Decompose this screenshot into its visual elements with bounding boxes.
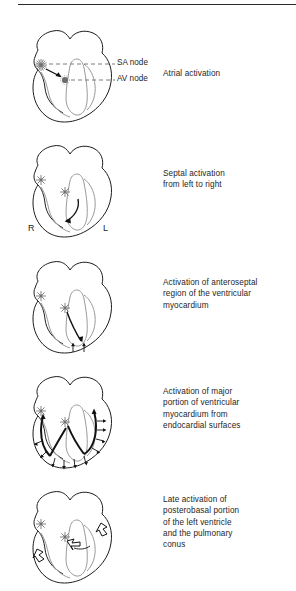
panel-late-activation: Late activation of posterobasal portion … [0, 479, 296, 591]
panel-major-portion-activation: Activation of major portion of ventricul… [0, 364, 296, 476]
av-node-marker [60, 187, 70, 197]
caption-line: myocardium [163, 300, 293, 311]
caption-line: region of the ventricular [163, 288, 293, 299]
caption-line: Activation of anteroseptal [163, 277, 293, 288]
caption-atrial-activation: Atrial activation [163, 68, 289, 79]
caption-line: Septal activation [163, 168, 289, 179]
av-node-marker [60, 303, 70, 313]
left-side-label: L [103, 223, 108, 233]
caption-line: Activation of major [163, 386, 293, 397]
sa-to-av-arrow [46, 69, 62, 77]
anteroseptal-main-arrow [67, 312, 83, 343]
panel-septal-activation: R L Septal activation from left to right [0, 133, 296, 245]
caption-line: Atrial activation [163, 68, 289, 79]
label-sa-node: SA node [117, 58, 148, 67]
pulmonary-conus-arrow [96, 523, 107, 536]
caption-line: of the left ventricle [163, 517, 293, 528]
label-av-node: AV node [117, 74, 148, 83]
purkinje-left-branch [68, 409, 97, 455]
caption-line: from left to right [163, 179, 289, 190]
caption-line: endocardial surfaces [163, 420, 293, 431]
right-side-label: R [28, 223, 35, 233]
caption-line: and the pulmonary [163, 528, 293, 539]
panel-atrial-activation: SA node AV node Atrial activation [0, 18, 296, 130]
av-node-marker [60, 417, 70, 427]
heart-diagram-anteroseptal [8, 249, 138, 361]
sa-node-marker [35, 59, 47, 71]
caption-septal-activation: Septal activation from left to right [163, 168, 289, 191]
caption-line: Late activation of [163, 494, 293, 505]
sa-node-marker [36, 175, 46, 185]
sa-node-marker [36, 406, 46, 416]
heart-diagram-major-portion [8, 364, 138, 476]
caption-late-activation: Late activation of posterobasal portion … [163, 494, 293, 550]
caption-anteroseptal-activation: Activation of anteroseptal region of the… [163, 277, 293, 311]
purkinje-right-branch [41, 414, 66, 457]
caption-line: myocardium from [163, 409, 293, 420]
caption-line: posterobasal portion [163, 505, 293, 516]
heart-diagram-late-activation [8, 479, 138, 591]
panel-anteroseptal-activation: Activation of anteroseptal region of the… [0, 249, 296, 361]
header-divider-rule [18, 4, 296, 5]
caption-line: conus [163, 539, 293, 550]
sa-node-marker [36, 519, 46, 529]
caption-major-portion-activation: Activation of major portion of ventricul… [163, 386, 293, 431]
caption-line: portion of ventricular [163, 397, 293, 408]
sa-node-marker [36, 291, 46, 301]
